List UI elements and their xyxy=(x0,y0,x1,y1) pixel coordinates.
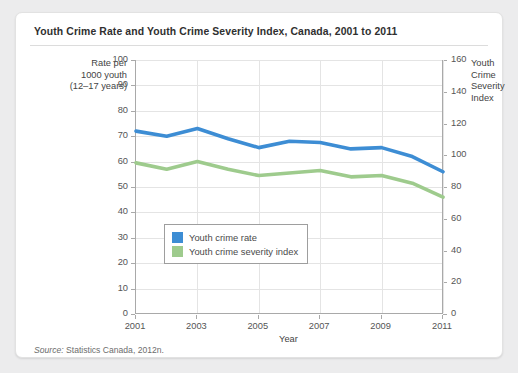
y-tick-label-right: 100 xyxy=(451,149,475,159)
legend-item-youth-crime-severity-index[interactable]: Youth crime severity index xyxy=(172,244,298,258)
y-tick-label-right: 0 xyxy=(451,308,475,318)
y-axis-title-right-line2: Crime xyxy=(471,70,517,82)
y-tick-label-left: 30 xyxy=(98,232,128,242)
x-tick-label: 2001 xyxy=(115,321,155,331)
x-tick-mark xyxy=(381,315,382,319)
x-tick-label: 2005 xyxy=(238,321,278,331)
source-note: Source: Statistics Canada, 2012n. xyxy=(34,345,164,355)
y-axis-title-right-line4: Index xyxy=(471,93,517,105)
y-tick-label-left: 60 xyxy=(98,156,128,166)
x-tick-mark xyxy=(258,315,259,319)
x-tick-label: 2009 xyxy=(361,321,401,331)
x-tick-label: 2007 xyxy=(299,321,339,331)
x-axis-title: Year xyxy=(135,334,442,344)
y-axis-title-right-line3: Severity xyxy=(471,81,517,93)
y-tick-label-right: 160 xyxy=(451,54,475,64)
y-tick-label-right: 40 xyxy=(451,245,475,255)
legend-label-youth-crime-severity-index: Youth crime severity index xyxy=(189,246,298,257)
x-tick-label: 2003 xyxy=(176,321,216,331)
y-tick-label-right: 60 xyxy=(451,213,475,223)
x-tick-mark xyxy=(196,315,197,319)
y-tick-label-left: 20 xyxy=(98,257,128,267)
y-tick-label-left: 10 xyxy=(98,283,128,293)
y-tick-mark-right xyxy=(443,314,447,315)
x-tick-mark xyxy=(319,315,320,319)
y-axis-title-right: Youth Crime Severity Index xyxy=(471,58,517,104)
legend-swatch-youth-crime-severity-index xyxy=(172,246,183,257)
x-tick-mark xyxy=(442,315,443,319)
legend-label-youth-crime-rate: Youth crime rate xyxy=(189,232,257,243)
y-tick-label-left: 80 xyxy=(98,105,128,115)
legend-item-youth-crime-rate[interactable]: Youth crime rate xyxy=(172,230,298,244)
y-tick-label-left: 90 xyxy=(98,79,128,89)
plot-area xyxy=(135,60,442,314)
y-tick-label-left: 40 xyxy=(98,206,128,216)
series-line-youth-crime-severity-index xyxy=(136,162,443,198)
figure-card: Youth Crime Rate and Youth Crime Severit… xyxy=(15,12,503,358)
y-tick-label-left: 100 xyxy=(98,54,128,64)
y-tick-label-left: 50 xyxy=(98,181,128,191)
x-tick-label: 2011 xyxy=(422,321,462,331)
title-divider xyxy=(30,45,488,46)
chart-legend: Youth crime rate Youth crime severity in… xyxy=(164,224,308,264)
y-tick-label-right: 120 xyxy=(451,118,475,128)
source-text: Statistics Canada, 2012n. xyxy=(64,345,164,355)
y-tick-label-right: 20 xyxy=(451,276,475,286)
legend-swatch-youth-crime-rate xyxy=(172,232,183,243)
x-tick-mark xyxy=(135,315,136,319)
chart-title: Youth Crime Rate and Youth Crime Severit… xyxy=(34,26,397,37)
gridline-vertical xyxy=(443,60,444,313)
y-axis-title-right-line1: Youth xyxy=(471,58,517,70)
y-tick-label-right: 80 xyxy=(451,181,475,191)
y-tick-label-right: 140 xyxy=(451,86,475,96)
y-tick-label-left: 70 xyxy=(98,130,128,140)
series-lines xyxy=(136,60,443,314)
source-label: Source: xyxy=(34,345,64,355)
y-tick-label-left: 0 xyxy=(98,308,128,318)
